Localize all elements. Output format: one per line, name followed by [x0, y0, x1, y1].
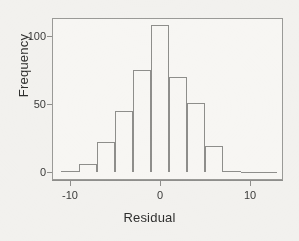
- x-axis-tick-mark: [250, 181, 251, 186]
- x-axis-tick-label: -10: [62, 190, 78, 201]
- x-axis-tick-mark: [160, 181, 161, 186]
- y-axis-tick-mark: [47, 172, 52, 173]
- y-axis-tick-label: 0: [40, 167, 46, 178]
- y-axis-tick-label: 50: [34, 99, 46, 110]
- y-axis-tick-mark: [47, 36, 52, 37]
- x-axis-tick-label: 10: [244, 190, 256, 201]
- histogram-figure: 100500-10010 Residual Frequency: [0, 0, 299, 241]
- x-axis-tick-label: 0: [157, 190, 163, 201]
- axis-ticks-layer: 100500-10010: [0, 0, 299, 241]
- y-axis-tick-mark: [47, 104, 52, 105]
- x-axis-label: Residual: [0, 210, 299, 225]
- x-axis-tick-mark: [70, 181, 71, 186]
- y-axis-label: Frequency: [16, 0, 31, 136]
